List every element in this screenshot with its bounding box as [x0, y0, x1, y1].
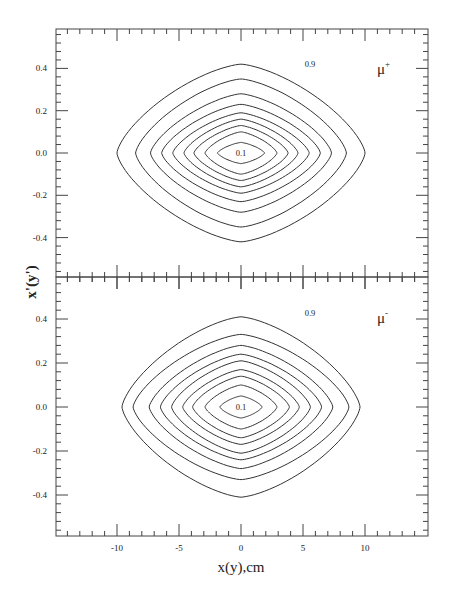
contour-plot-svg: 0.40.20.0-0.2-0.40.10.9μ+ 0.40.20.0-0.2-… [0, 0, 451, 593]
x-tick-labels: -10-50510 [111, 543, 370, 553]
y-tick-label: 0.0 [36, 402, 48, 412]
y-tick-label: -0.4 [33, 490, 48, 500]
y-tick-label: 0.4 [36, 314, 48, 324]
x-tick-label: 5 [301, 543, 306, 553]
panel-mu-minus: 0.40.20.0-0.2-0.40.10.9μ- [33, 277, 428, 536]
y-tick-label: -0.2 [33, 190, 47, 200]
x-axis-label: x(y),cm [217, 559, 264, 576]
species-label-mu-plus: μ+ [377, 59, 390, 77]
y-tick-label: -0.2 [33, 446, 47, 456]
x-tick-label: 0 [239, 543, 244, 553]
y-tick-label: 0.2 [36, 358, 47, 368]
contour-label-inner: 0.1 [236, 402, 247, 412]
x-tick-label: -10 [111, 543, 123, 553]
panel-mu-plus: 0.40.20.0-0.2-0.40.10.9μ+ [33, 29, 428, 289]
y-tick-label: 0.0 [36, 148, 48, 158]
y-tick-label: 0.2 [36, 106, 47, 116]
x-tick-label: 10 [361, 543, 371, 553]
y-tick-label: 0.4 [36, 63, 48, 73]
y-axis-label: x'(y') [23, 265, 40, 298]
contour-label-inner: 0.1 [236, 148, 247, 158]
y-tick-label: -0.4 [33, 233, 48, 243]
species-label-mu-minus: μ- [377, 308, 388, 326]
contour-label-outer: 0.9 [305, 59, 316, 69]
contour-figure: 0.40.20.0-0.2-0.40.10.9μ+ 0.40.20.0-0.2-… [0, 0, 451, 593]
x-tick-label: -5 [175, 543, 183, 553]
contour-label-outer: 0.9 [305, 308, 316, 318]
